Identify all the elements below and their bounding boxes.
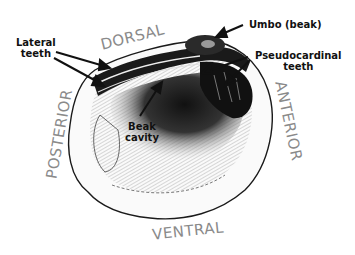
label-lateral-teeth-line1: Lateral [16, 37, 56, 48]
label-lateral-teeth: Lateral teeth [16, 37, 56, 59]
label-pseudocardinal-teeth: Pseudocardinal teeth [255, 50, 342, 72]
label-pseudocardinal-line1: Pseudocardinal [255, 50, 342, 61]
label-umbo: Umbo (beak) [249, 19, 322, 30]
shell-diagram: DORSAL VENTRAL ANTERIOR POSTERIOR Latera… [0, 0, 355, 255]
label-pseudocardinal-line2: teeth [255, 61, 342, 72]
label-beak-cavity-line2: cavity [125, 132, 159, 143]
label-beak-cavity: Beak cavity [125, 121, 159, 143]
label-beak-cavity-line1: Beak [125, 121, 159, 132]
label-lateral-teeth-line2: teeth [16, 48, 56, 59]
